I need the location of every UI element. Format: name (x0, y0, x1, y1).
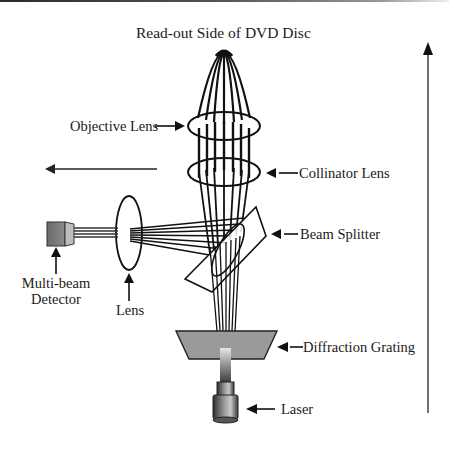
label-detector-line1: Multi-beam (20, 276, 92, 291)
detector-beam (69, 228, 118, 237)
label-lens: Lens (116, 303, 144, 318)
label-collinator-lens: Collinator Lens (299, 166, 390, 181)
label-detector-line2: Detector (20, 292, 92, 307)
left-direction-arrow (45, 164, 157, 174)
multi-beam-detector (47, 222, 74, 246)
laser-emitter (213, 382, 238, 423)
laser-beam (220, 348, 231, 383)
diagram-title: Read-out Side of DVD Disc (136, 25, 311, 41)
optical-pickup-diagram (0, 0, 449, 457)
label-beam-splitter: Beam Splitter (300, 227, 380, 242)
label-laser: Laser (281, 402, 313, 417)
pointer-arrows (51, 121, 303, 414)
label-diffraction-grating: Diffraction Grating (303, 340, 415, 355)
label-objective-lens: Objective Lens (70, 119, 158, 134)
vertical-direction-arrow (423, 42, 433, 413)
